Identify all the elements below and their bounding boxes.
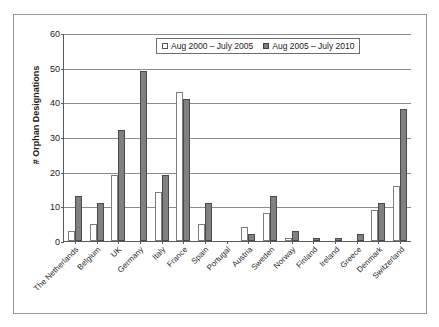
- bar-group: [368, 34, 390, 241]
- chart-legend: Aug 2000 – July 2005Aug 2005 – July 2010: [156, 38, 360, 54]
- bar-groups: [64, 34, 411, 241]
- bar-group: [346, 34, 368, 241]
- x-label-cell: Austria: [237, 242, 259, 312]
- y-tick-label: 50: [50, 64, 60, 74]
- bar: [183, 99, 190, 241]
- bar: [140, 71, 147, 241]
- x-axis-tick-label: The Netherlands: [32, 245, 80, 293]
- bar: [357, 234, 364, 241]
- x-label-cell: Norway: [281, 242, 303, 312]
- bar: [270, 196, 277, 241]
- bar-group: [194, 34, 216, 241]
- bar-group: [107, 34, 129, 241]
- legend-swatch-icon: [162, 43, 168, 49]
- x-label-cell: Portugal: [215, 242, 237, 312]
- bar: [248, 234, 255, 241]
- y-tick-label: 30: [50, 133, 60, 143]
- y-tick-label: 10: [50, 202, 60, 212]
- bar-group: [86, 34, 108, 241]
- bar: [313, 238, 320, 241]
- x-label-cell: Switzerland: [389, 242, 411, 312]
- bar: [162, 175, 169, 241]
- bar-group: [172, 34, 194, 241]
- legend-label: Aug 2005 – July 2010: [272, 41, 354, 51]
- chart-page: # Orphan Designations 0102030405060 The …: [0, 0, 439, 327]
- y-tick-label: 0: [55, 237, 60, 247]
- bar: [97, 203, 104, 241]
- bar: [400, 109, 407, 241]
- bar: [371, 210, 378, 241]
- x-label-cell: The Netherlands: [63, 242, 85, 312]
- bar-group: [238, 34, 260, 241]
- x-axis-labels: The NetherlandsBelgiumUKGermanyItalyFran…: [63, 242, 411, 312]
- x-axis-tick-label: UK: [110, 245, 124, 259]
- bar-group: [389, 34, 411, 241]
- plot-area: 0102030405060: [63, 34, 411, 242]
- y-tick-label: 60: [50, 29, 60, 39]
- x-label-cell: France: [172, 242, 194, 312]
- legend-entry: Aug 2000 – July 2005: [162, 41, 253, 51]
- bar: [111, 175, 118, 241]
- bar: [393, 186, 400, 241]
- legend-entry: Aug 2005 – July 2010: [263, 41, 354, 51]
- bar: [335, 238, 342, 241]
- x-label-cell: Belgium: [85, 242, 107, 312]
- bar: [205, 203, 212, 241]
- bar: [292, 231, 299, 241]
- bar: [155, 192, 162, 241]
- x-label-cell: Greece: [346, 242, 368, 312]
- bar-group: [259, 34, 281, 241]
- bar-group: [64, 34, 86, 241]
- x-label-cell: Spain: [194, 242, 216, 312]
- bar-group: [151, 34, 173, 241]
- legend-label: Aug 2000 – July 2005: [171, 41, 253, 51]
- y-tick-label: 20: [50, 168, 60, 178]
- figure-frame: # Orphan Designations 0102030405060 The …: [13, 14, 427, 314]
- bar: [68, 231, 75, 241]
- bar-group: [129, 34, 151, 241]
- y-tick-label: 40: [50, 98, 60, 108]
- bar: [75, 196, 82, 241]
- bar: [285, 238, 292, 241]
- bar: [198, 224, 205, 241]
- bar-group: [281, 34, 303, 241]
- x-label-cell: Ireland: [324, 242, 346, 312]
- y-axis-title: # Orphan Designations: [31, 55, 41, 175]
- x-label-cell: UK: [107, 242, 129, 312]
- bar-group: [324, 34, 346, 241]
- bar: [241, 227, 248, 241]
- bar: [118, 130, 125, 241]
- bar: [378, 203, 385, 241]
- bar: [176, 92, 183, 241]
- x-label-cell: Finland: [302, 242, 324, 312]
- bar-group: [216, 34, 238, 241]
- x-label-cell: Sweden: [259, 242, 281, 312]
- bar-chart: # Orphan Designations 0102030405060 The …: [14, 15, 428, 315]
- x-label-cell: Italy: [150, 242, 172, 312]
- legend-swatch-icon: [263, 43, 269, 49]
- x-axis-tick-label: Italy: [151, 245, 168, 262]
- bar: [263, 213, 270, 241]
- bar: [90, 224, 97, 241]
- bar-group: [303, 34, 325, 241]
- x-label-cell: Germany: [128, 242, 150, 312]
